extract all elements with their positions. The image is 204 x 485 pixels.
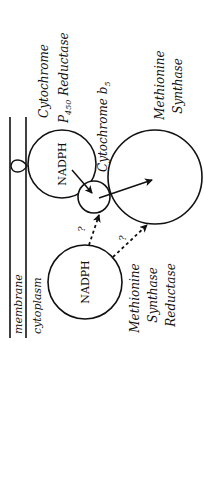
ms-circle — [108, 130, 202, 224]
membrane-label: membrane — [12, 274, 25, 334]
cpr-label-450: 450 — [64, 100, 73, 116]
question-mark-ms: ? — [117, 235, 128, 241]
b5-label-sub: 5 — [103, 82, 112, 87]
membrane-anchor — [11, 160, 27, 172]
cpr-label-line2: P450 Reductase — [57, 32, 73, 124]
b5-label-main: Cytochrome b — [96, 87, 110, 172]
b5-circle — [78, 181, 110, 213]
question-mark-b5: ? — [76, 226, 87, 232]
cytoplasm-label: cytoplasm — [31, 277, 44, 334]
msr-label-line2: Synthase — [146, 267, 160, 323]
dashed-arrow-msr-to-b5 — [89, 215, 99, 245]
cytochrome-b5 — [78, 181, 110, 213]
msr-nadph-label: NADPH — [79, 260, 92, 303]
methionine-synthase — [108, 130, 202, 224]
electron-transfer-diagram: membrane cytoplasm NADPH NADPH ? ? Cytoc… — [0, 0, 204, 485]
ms-label-line1: Methionine — [153, 50, 167, 120]
b5-label: Cytochrome b5 — [96, 82, 112, 173]
ms-label-line2: Synthase — [171, 58, 185, 114]
cpr-nadph-label: NADPH — [56, 142, 69, 185]
methionine-synthase-reductase: NADPH — [48, 245, 122, 319]
cpr-label-line1: Cytochrome — [37, 44, 51, 118]
msr-label-line3: Reductase — [164, 263, 178, 328]
msr-label-line1: Methionine — [128, 263, 142, 333]
cpr-label-reductase: Reductase — [57, 32, 71, 99]
